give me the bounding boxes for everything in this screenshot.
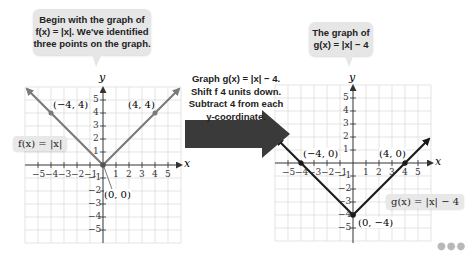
right-y-axis-label: y xyxy=(349,71,355,84)
point-label-0-0: (0, 0) xyxy=(104,189,131,200)
f-function-label: f(x) = |x| xyxy=(13,136,67,151)
point-label-4-4: (4, 4) xyxy=(128,99,155,110)
more-options-icon[interactable]: ●●● xyxy=(437,240,466,251)
right-callout-tail xyxy=(344,54,356,68)
point-label-neg4-4: (−4, 4) xyxy=(53,99,88,110)
point-label-4-0: (4, 0) xyxy=(379,148,406,159)
left-y-axis-label: y xyxy=(99,71,105,84)
right-x-axis-label: x xyxy=(435,155,441,168)
right-callout: The graph of g(x) = |x| − 4 xyxy=(309,22,373,56)
left-x-axis-label: x xyxy=(184,157,190,170)
g-function-label: g(x) = |x| − 4 xyxy=(386,194,464,209)
left-callout-tail xyxy=(92,54,104,68)
instruction-text: Graph g(x) = |x| − 4. Shift f 4 units do… xyxy=(183,73,289,123)
point-label-0-neg4: (0, −4) xyxy=(358,217,393,228)
left-callout: Begin with the graph of f(x) = |x|. We'v… xyxy=(33,9,151,55)
point-label-neg4-0: (−4, 0) xyxy=(303,148,338,159)
diagram-stage: x y −5 −4 −3 −2 −1 1 2 3 4 5 5 4 3 2 1 −… xyxy=(0,0,471,259)
